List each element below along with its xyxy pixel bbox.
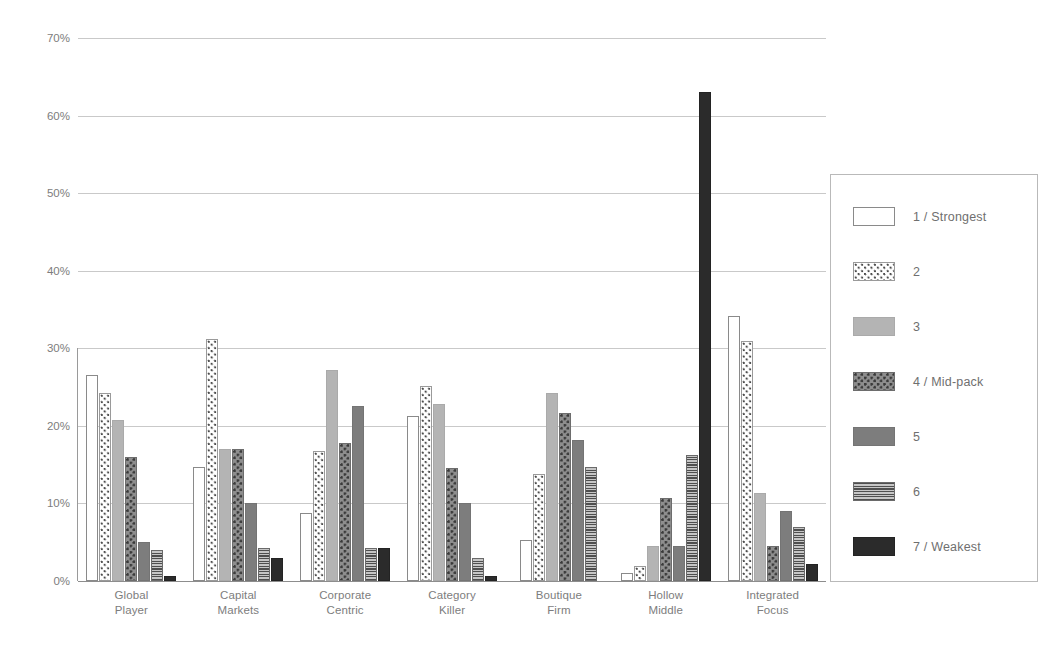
bar	[112, 420, 124, 581]
legend-label: 7 / Weakest	[913, 540, 981, 554]
x-axis-category-label-line: Markets	[185, 603, 292, 618]
y-axis-tick-label: 60%	[16, 110, 70, 122]
bar-group	[185, 38, 292, 581]
bar-groups	[78, 38, 826, 581]
bar	[472, 558, 484, 581]
legend-item[interactable]: 4 / Mid-pack	[831, 354, 1037, 409]
bar	[520, 540, 532, 581]
legend-item[interactable]: 2	[831, 244, 1037, 299]
x-axis-line	[78, 581, 826, 582]
x-axis-category-label-line: Boutique	[505, 588, 612, 603]
x-axis-category-label: HollowMiddle	[612, 588, 719, 618]
bar	[86, 375, 98, 581]
x-axis-category-label-line: Capital	[185, 588, 292, 603]
bar-group	[78, 38, 185, 581]
legend-label: 2	[913, 265, 920, 279]
legend-swatch-icon	[853, 537, 895, 556]
bar	[485, 576, 497, 581]
bar	[232, 449, 244, 581]
legend-label: 1 / Strongest	[913, 210, 986, 224]
x-axis-category-label-line: Player	[78, 603, 185, 618]
bar	[219, 449, 231, 581]
x-axis-category-label-line: Centric	[292, 603, 399, 618]
bar	[459, 503, 471, 581]
x-axis-category-label: CorporateCentric	[292, 588, 399, 618]
bar	[686, 455, 698, 581]
legend-swatch-icon	[853, 317, 895, 336]
bar	[125, 457, 137, 581]
y-axis-tick-label: 40%	[16, 265, 70, 277]
y-axis-tick-label: 70%	[16, 32, 70, 44]
chart-legend: 1 / Strongest234 / Mid-pack567 / Weakest	[830, 174, 1038, 582]
bar	[741, 341, 753, 581]
bar	[559, 413, 571, 581]
legend-swatch-icon	[853, 207, 895, 226]
bar	[258, 548, 270, 581]
x-axis-category-label: CapitalMarkets	[185, 588, 292, 618]
x-axis-category-label-line: Firm	[505, 603, 612, 618]
bar	[634, 566, 646, 582]
bar	[151, 550, 163, 581]
x-axis-category-label: CategoryKiller	[399, 588, 506, 618]
legend-swatch-icon	[853, 427, 895, 446]
bar	[572, 440, 584, 581]
x-axis-category-label-line: Killer	[399, 603, 506, 618]
bar	[621, 573, 633, 581]
bar-group	[399, 38, 506, 581]
y-axis-tick-label: 50%	[16, 187, 70, 199]
legend-item[interactable]: 6	[831, 464, 1037, 519]
x-axis-category-label: GlobalPlayer	[78, 588, 185, 618]
x-axis-category-label-line: Category	[399, 588, 506, 603]
bar	[420, 386, 432, 581]
bar	[546, 393, 558, 581]
bar	[699, 92, 711, 581]
y-axis-tick-label: 20%	[16, 420, 70, 432]
legend-item[interactable]: 1 / Strongest	[831, 189, 1037, 244]
bar	[164, 576, 176, 581]
x-axis-category-label-line: Middle	[612, 603, 719, 618]
bar	[271, 558, 283, 581]
bar-group	[719, 38, 826, 581]
x-axis-category-label-line: Hollow	[612, 588, 719, 603]
x-axis-category-label: IntegratedFocus	[719, 588, 826, 618]
bar	[138, 542, 150, 581]
bar	[433, 404, 445, 581]
legend-label: 4 / Mid-pack	[913, 375, 983, 389]
y-axis-tick-label: 0%	[16, 575, 70, 587]
legend-label: 3	[913, 320, 920, 334]
bar	[300, 513, 312, 581]
legend-swatch-icon	[853, 262, 895, 281]
bar	[673, 546, 685, 581]
legend-item[interactable]: 7 / Weakest	[831, 519, 1037, 574]
y-axis-tick-label: 30%	[16, 342, 70, 354]
bar	[660, 498, 672, 581]
bar-chart: 70%60%50%40%30%20%10%0% GlobalPlayerCapi…	[0, 0, 1046, 671]
y-axis-tick-label: 10%	[16, 497, 70, 509]
bar-group	[505, 38, 612, 581]
legend-item[interactable]: 3	[831, 299, 1037, 354]
bar	[365, 548, 377, 581]
bar	[352, 406, 364, 581]
bar-group	[612, 38, 719, 581]
bar	[206, 339, 218, 581]
bar	[407, 416, 419, 581]
x-axis-category-labels: GlobalPlayerCapitalMarketsCorporateCentr…	[78, 588, 826, 618]
plot-area: 70%60%50%40%30%20%10%0%	[78, 38, 826, 581]
bar	[728, 316, 740, 581]
bar	[245, 503, 257, 581]
bar	[378, 548, 390, 581]
bar	[767, 546, 779, 581]
bar	[585, 467, 597, 581]
bar	[446, 468, 458, 581]
bar	[806, 564, 818, 581]
x-axis-category-label: BoutiqueFirm	[505, 588, 612, 618]
x-axis-category-label-line: Global	[78, 588, 185, 603]
x-axis-category-label-line: Focus	[719, 603, 826, 618]
legend-item[interactable]: 5	[831, 409, 1037, 464]
legend-label: 6	[913, 485, 920, 499]
bar	[313, 451, 325, 581]
bar	[193, 467, 205, 581]
bar	[793, 527, 805, 581]
legend-swatch-icon	[853, 482, 895, 501]
bar	[339, 443, 351, 581]
